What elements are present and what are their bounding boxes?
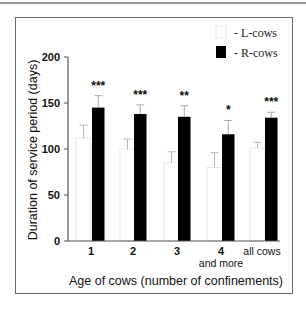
legend-label-l-cows: - L-cows — [234, 26, 277, 40]
y-axis-title: Duration of service period (days) — [26, 60, 40, 241]
bar-l-cows — [207, 167, 222, 241]
x-tick-label: 2 — [130, 245, 136, 257]
significance-marker: *** — [91, 79, 105, 93]
x-tick-label: all cows — [243, 245, 280, 257]
significance-marker: *** — [264, 95, 278, 109]
legend: - L-cows - R-cows — [216, 26, 278, 60]
bar-r-cows — [265, 118, 278, 241]
legend-swatch-l-cows — [216, 26, 226, 38]
bar-l-cows — [250, 148, 265, 241]
bar-r-cows — [134, 114, 147, 241]
bar-r-cows — [92, 108, 105, 241]
legend-label-r-cows: - R-cows — [234, 46, 278, 60]
legend-swatch-r-cows — [216, 46, 226, 58]
x-tick-label: 3 — [174, 245, 180, 257]
significance-marker: ** — [180, 89, 190, 103]
x-tick-sublabel: and more — [199, 257, 244, 269]
y-tick-label: 200 — [42, 51, 60, 63]
y-tick-label: 50 — [48, 189, 60, 201]
significance-marker: *** — [133, 88, 147, 102]
bar-r-cows — [222, 134, 235, 241]
bar-l-cows — [120, 149, 135, 241]
bar-l-cows — [76, 138, 91, 241]
y-axis: 050100150200 — [42, 51, 68, 247]
bars: ************ — [76, 79, 279, 241]
x-axis: 1234and moreall cows — [68, 241, 281, 269]
bar-r-cows — [178, 117, 191, 241]
x-tick-label: 4 — [218, 245, 225, 257]
y-tick-label: 100 — [42, 143, 60, 155]
significance-marker: * — [226, 103, 231, 117]
bar-chart: 050100150200 ************ 1234and moreal… — [0, 0, 306, 310]
bar-l-cows — [164, 163, 179, 241]
y-tick-label: 0 — [54, 235, 60, 247]
x-axis-title: Age of cows (number of confinements) — [69, 274, 283, 288]
x-tick-label: 1 — [88, 245, 94, 257]
y-tick-label: 150 — [42, 97, 60, 109]
